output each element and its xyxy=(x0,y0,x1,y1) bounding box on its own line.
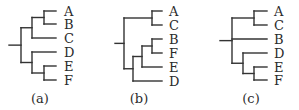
leaf-label-A: A xyxy=(273,4,284,19)
panel-caption-a: (a) xyxy=(31,91,49,106)
leaf-label-A: A xyxy=(168,4,179,19)
leaf-label-F: F xyxy=(64,73,73,88)
phylogenetic-trees-figure: ABCDEF(a) ACBFED(b) ACBDEF(c) xyxy=(0,0,299,110)
leaf-label-D: D xyxy=(64,45,74,60)
panel-caption-b: (b) xyxy=(130,91,148,106)
tree-panel-b: ACBFED(b) xyxy=(115,4,179,107)
leaf-label-D: D xyxy=(169,74,179,89)
leaf-label-C: C xyxy=(64,31,74,46)
leaf-label-B: B xyxy=(64,17,74,32)
leaf-label-D: D xyxy=(274,46,284,61)
leaf-label-B: B xyxy=(274,32,284,47)
leaf-label-F: F xyxy=(169,46,178,61)
panel-caption-c: (c) xyxy=(242,91,259,106)
tree-panel-a: ABCDEF(a) xyxy=(9,4,74,107)
tree-panel-c: ACBDEF(c) xyxy=(220,4,284,107)
leaf-label-C: C xyxy=(169,18,179,33)
leaf-label-E: E xyxy=(169,60,179,75)
leaf-label-B: B xyxy=(169,32,179,47)
leaf-label-C: C xyxy=(274,18,284,33)
leaf-label-F: F xyxy=(274,73,283,88)
leaf-label-E: E xyxy=(64,59,74,74)
